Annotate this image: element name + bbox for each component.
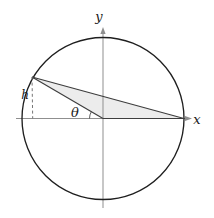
- theta-label: θ: [71, 105, 79, 120]
- height-label: h: [21, 88, 29, 102]
- unit-circle-diagram: x y θ h: [0, 0, 214, 218]
- y-axis-label: y: [94, 9, 103, 24]
- y-axis-arrowhead: [100, 27, 105, 34]
- x-axis-arrowhead: [185, 116, 192, 121]
- x-axis-label: x: [193, 112, 201, 127]
- theta-angle-arc: [90, 112, 92, 119]
- theta-angle-arc-outer: [79, 119, 131, 146]
- figure-container: x y θ h: [0, 0, 214, 218]
- height-dashed-line: [32, 77, 33, 119]
